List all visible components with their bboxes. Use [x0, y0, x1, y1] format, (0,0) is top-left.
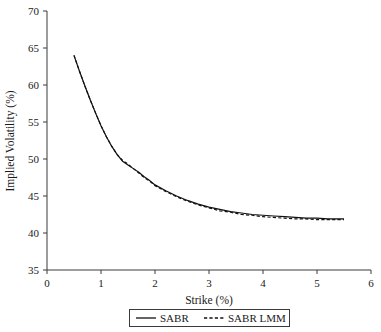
chart-figure: 3540455055606570 0123456 Strike (%) Impl…	[0, 0, 381, 332]
series-line-sabr-lmm	[74, 55, 344, 219]
y-axis-title: Implied Volatility (%)	[4, 90, 17, 191]
y-tick-label: 40	[28, 227, 40, 239]
x-tick-label: 6	[368, 277, 374, 289]
x-tick-label: 2	[152, 277, 158, 289]
x-tick-label: 4	[260, 277, 266, 289]
x-axis-ticks: 0123456	[44, 270, 374, 289]
axes	[47, 11, 371, 270]
y-tick-label: 60	[28, 79, 40, 91]
x-tick-label: 3	[206, 277, 212, 289]
series-line-sabr	[74, 55, 344, 219]
implied-volatility-smile-chart: 3540455055606570 0123456 Strike (%) Impl…	[0, 0, 381, 332]
y-axis-ticks: 3540455055606570	[28, 5, 47, 276]
legend-label-sabr: SABR	[160, 312, 189, 324]
y-tick-label: 55	[28, 116, 40, 128]
legend-label-sabr-lmm: SABR LMM	[228, 312, 286, 324]
x-tick-label: 5	[314, 277, 320, 289]
x-axis-title: Strike (%)	[185, 294, 233, 307]
y-tick-label: 35	[28, 264, 40, 276]
x-tick-label: 1	[98, 277, 104, 289]
chart-legend: SABR SABR LMM	[130, 310, 290, 327]
y-tick-label: 65	[28, 42, 40, 54]
x-tick-label: 0	[44, 277, 50, 289]
y-tick-label: 50	[28, 153, 40, 165]
series-layer	[74, 55, 344, 219]
y-tick-label: 70	[28, 5, 40, 17]
y-tick-label: 45	[28, 190, 40, 202]
